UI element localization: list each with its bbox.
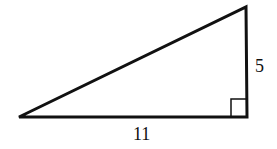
vertical-leg-label: 5 xyxy=(255,56,264,76)
triangle-diagram: 5 11 xyxy=(0,0,277,149)
right-angle-marker xyxy=(231,99,247,117)
right-triangle xyxy=(19,7,247,117)
horizontal-leg-label: 11 xyxy=(133,124,150,144)
